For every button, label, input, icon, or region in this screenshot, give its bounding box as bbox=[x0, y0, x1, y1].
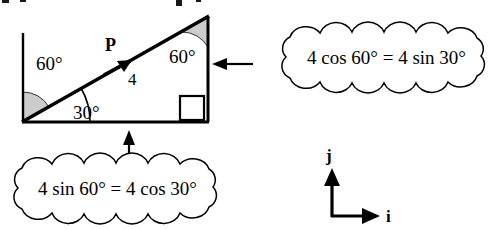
force-vector-diagram: 60° 30° 60° P 4 4 cos 60° = 4 sin 30° 4 … bbox=[0, 0, 493, 230]
right-callout-arrow bbox=[212, 58, 253, 70]
vector-p-label: P bbox=[105, 36, 116, 54]
bottom-callout-text: 4 sin 60° = 4 cos 30° bbox=[38, 179, 197, 198]
right-callout-text: 4 cos 60° = 4 sin 30° bbox=[307, 48, 466, 67]
vertical-reference-angle-label: 60° bbox=[36, 54, 63, 73]
apex-angle-sector bbox=[182, 17, 208, 47]
unit-vector-axes bbox=[324, 168, 380, 224]
apex-angle-label: 60° bbox=[169, 47, 196, 66]
clipped-text-artifacts bbox=[2, 0, 201, 6]
axis-j-arrowhead bbox=[324, 168, 340, 186]
axis-i-arrowhead bbox=[362, 208, 380, 224]
right-angle-marker bbox=[180, 96, 204, 120]
axis-i-label: i bbox=[386, 208, 391, 225]
axis-j-label: j bbox=[326, 147, 332, 164]
vector-magnitude-label: 4 bbox=[128, 71, 137, 88]
base-angle-label: 30° bbox=[73, 103, 100, 122]
